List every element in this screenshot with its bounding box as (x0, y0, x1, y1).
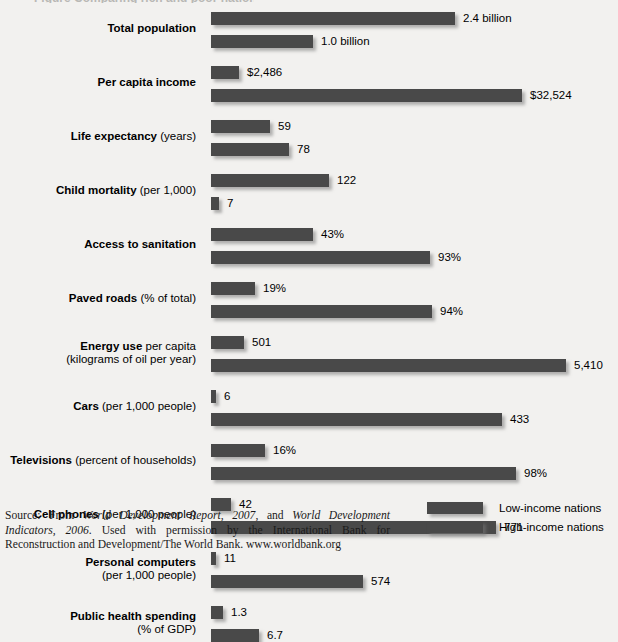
bar-low-income (211, 282, 255, 295)
chart-group: Energy use per capita(kilograms of oil p… (0, 336, 618, 372)
bar-low-income (211, 336, 244, 349)
bar-value-label: 1.0 billion (321, 34, 370, 48)
legend-item: Low-income nations (427, 500, 617, 519)
bar-row: 6 (0, 390, 618, 403)
bar-row: 2.4 billion (0, 12, 618, 25)
bar-value-label: 6 (224, 389, 230, 403)
bar-value-label: 43% (321, 227, 344, 241)
source-citation: Source: From World Development Report, 2… (5, 509, 390, 553)
bar-high-income (211, 305, 432, 318)
cutoff-figure-title: Figure Comparing rich and poor nations (34, 0, 254, 3)
bar-high-income (211, 35, 313, 48)
bar-value-label: 1.3 (231, 605, 247, 619)
bar-value-label: 501 (252, 335, 271, 349)
bar-row: 19% (0, 282, 618, 295)
source-conjunction: , and (255, 509, 292, 522)
bar-high-income (211, 143, 289, 156)
bar-row: 16% (0, 444, 618, 457)
bar-high-income (211, 575, 363, 588)
bar-value-label: 5,410 (574, 358, 603, 372)
bar-row: 98% (0, 467, 618, 480)
bar-high-income (211, 251, 430, 264)
bar-value-label: 7 (227, 196, 233, 210)
chart-legend: Low-income nationsHigh-income nations (427, 500, 617, 538)
bar-value-label: 93% (438, 250, 461, 264)
bar-row: 1.3 (0, 606, 618, 619)
chart-group: Personal computers(per 1,000 people)1157… (0, 552, 618, 588)
legend-label: Low-income nations (499, 500, 601, 516)
bar-row: 574 (0, 575, 618, 588)
bar-low-income (211, 66, 239, 79)
bar-row: 59 (0, 120, 618, 133)
bar-row: 433 (0, 413, 618, 426)
bar-low-income (211, 228, 313, 241)
bar-row: 7 (0, 197, 618, 210)
bar-high-income (211, 89, 522, 102)
bar-row: $2,486 (0, 66, 618, 79)
chart-group: Total population2.4 billion1.0 billion (0, 12, 618, 48)
bar-low-income (211, 120, 270, 133)
bar-row: 93% (0, 251, 618, 264)
bar-value-label: 19% (263, 281, 286, 295)
bar-value-label: 16% (273, 443, 296, 457)
bar-value-label: 94% (440, 304, 463, 318)
chart-group: Per capita income$2,486$32,524 (0, 66, 618, 102)
bar-low-income (211, 552, 216, 565)
bar-low-income (211, 606, 223, 619)
bar-high-income (211, 197, 219, 210)
bar-row: $32,524 (0, 89, 618, 102)
bar-value-label: 122 (337, 173, 356, 187)
chart-group: Cars (per 1,000 people)6433 (0, 390, 618, 426)
bar-row: 78 (0, 143, 618, 156)
bar-high-income (211, 467, 516, 480)
bar-high-income (211, 413, 502, 426)
legend-swatch-high (427, 521, 483, 533)
bar-row: 1.0 billion (0, 35, 618, 48)
bar-value-label: 78 (297, 142, 310, 156)
legend-label: High-income nations (499, 519, 604, 535)
chart-group: Access to sanitation43%93% (0, 228, 618, 264)
bar-value-label: 2.4 billion (463, 11, 512, 25)
bar-row: 501 (0, 336, 618, 349)
bar-row: 94% (0, 305, 618, 318)
legend-swatch-low (427, 502, 483, 514)
chart-group: Televisions (percent of households)16%98… (0, 444, 618, 480)
source-prefix: Source: From (5, 509, 83, 522)
bar-row: 43% (0, 228, 618, 241)
bar-row: 5,410 (0, 359, 618, 372)
source-work-1: World Development Report, 2007 (83, 509, 256, 522)
bar-high-income (211, 629, 259, 642)
chart-group: Child mortality (per 1,000)1227 (0, 174, 618, 210)
bar-value-label: 6.7 (267, 628, 283, 642)
chart-group: Paved roads (% of total)19%94% (0, 282, 618, 318)
bar-value-label: 59 (278, 119, 291, 133)
bar-value-label: $2,486 (247, 65, 282, 79)
bar-low-income (211, 444, 265, 457)
bar-row: 11 (0, 552, 618, 565)
chart-group: Life expectancy (years)5978 (0, 120, 618, 156)
bar-value-label: 11 (224, 551, 236, 565)
bar-row: 122 (0, 174, 618, 187)
bar-row: 6.7 (0, 629, 618, 642)
bar-low-income (211, 12, 455, 25)
bar-value-label: $32,524 (530, 88, 572, 102)
legend-item: High-income nations (427, 519, 617, 538)
bar-low-income (211, 174, 329, 187)
bar-high-income (211, 359, 566, 372)
bar-low-income (211, 390, 216, 403)
bar-value-label: 433 (510, 412, 529, 426)
bar-value-label: 98% (524, 466, 547, 480)
chart-group: Public health spending(% of GDP)1.36.7 (0, 606, 618, 642)
bar-value-label: 574 (371, 574, 390, 588)
